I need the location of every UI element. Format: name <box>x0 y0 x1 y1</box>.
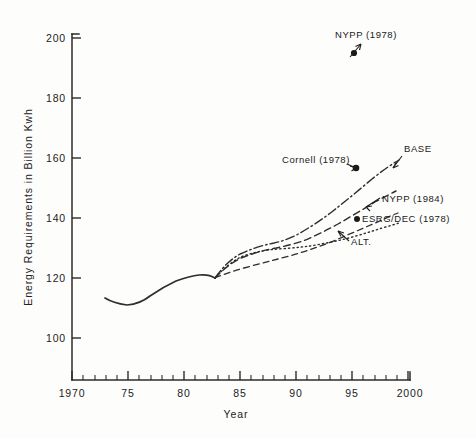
annotation-label-alt: ALT. <box>351 236 372 247</box>
x-tick-label-75: 75 <box>121 387 134 399</box>
annotation-label-base: BASE <box>404 143 432 154</box>
energy-requirements-chart: 200 180 160 140 120 100 <box>0 0 476 438</box>
x-tick-label-80: 80 <box>177 387 190 399</box>
x-tick-labels: 1970 75 80 85 90 95 2000 <box>59 387 424 399</box>
y-tick-label-200: 200 <box>46 32 66 44</box>
y-tick-label-100: 100 <box>46 332 66 344</box>
y-tick-label-120: 120 <box>46 272 66 284</box>
x-tick-label-2000: 2000 <box>397 387 424 399</box>
x-axis-title: Year <box>224 408 249 420</box>
series-historical <box>105 275 215 305</box>
y-tick-label-180: 180 <box>46 92 66 104</box>
y-axis-title: Energy Requirements in Billion Kwh <box>22 108 34 306</box>
annotation-label-nypp-1978: NYPP (1978) <box>335 29 397 40</box>
x-tick-marks <box>72 371 408 380</box>
annotation-label-nypp-1984: NYPP (1984) <box>382 193 444 204</box>
x-tick-label-95: 95 <box>345 387 358 399</box>
x-tick-label-90: 90 <box>289 387 302 399</box>
chart-canvas: 200 180 160 140 120 100 <box>0 0 476 438</box>
x-tick-label-1970: 1970 <box>59 387 86 399</box>
axis-group <box>72 34 410 380</box>
y-tick-label-160: 160 <box>46 152 66 164</box>
leader-nypp-1984 <box>366 198 380 211</box>
y-tick-labels: 200 180 160 140 120 100 <box>46 32 66 344</box>
y-tick-label-140: 140 <box>46 212 66 224</box>
y-tick-marks <box>72 38 81 338</box>
annotation-label-cornell-1978: Cornell (1978) <box>282 154 350 165</box>
series-nypp-1984 <box>215 191 396 278</box>
point-marker-esrg-dec-1978 <box>354 216 360 222</box>
x-tick-label-85: 85 <box>233 387 246 399</box>
leader-base <box>393 156 402 168</box>
annotation-label-esrg-dec-1978: ESRG/DEC (1978) <box>362 213 450 224</box>
